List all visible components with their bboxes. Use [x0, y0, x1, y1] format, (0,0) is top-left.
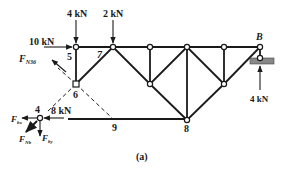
node-label-6: 6 [73, 89, 78, 100]
node-label-5: 5 [67, 51, 72, 62]
removed-member-6-9 [76, 84, 112, 118]
joint-top4 [184, 44, 189, 49]
joint-top3 [147, 44, 152, 49]
force-label-FNb: FNb [18, 134, 32, 145]
figure-caption: (a) [136, 151, 148, 163]
force-label-FN36: FN36 [18, 53, 36, 65]
node-label-8: 8 [184, 123, 189, 134]
force-label-Fbx: Fbx [10, 114, 23, 125]
joint-top5 [221, 44, 226, 49]
node-label-4: 4 [35, 104, 40, 115]
arrow-FN36 [52, 60, 66, 72]
joint-lower1 [147, 81, 152, 86]
node-label-9: 9 [112, 122, 117, 133]
member-7-lower1 [113, 47, 150, 84]
force-label-Fby: Fby [41, 133, 54, 144]
joint-8 [184, 117, 189, 122]
member-8-lower2 [187, 84, 224, 120]
arrow-FNb [26, 121, 37, 132]
load-label-8kN: 8 kN [51, 105, 72, 116]
joint-6 [73, 81, 79, 87]
load-label-4kN: 4 kN [67, 8, 88, 19]
member-lower1-top4 [150, 47, 187, 84]
joint-5 [73, 44, 78, 49]
member-lower2-B [224, 47, 260, 84]
member-lower1-8 [150, 84, 187, 120]
member-6-7 [76, 47, 113, 84]
joint-B [257, 44, 262, 49]
joint-7 [110, 44, 115, 49]
truss-diagram: 4 kN 2 kN 10 kN B 4 kN 8 kN 5 7 6 4 9 8 … [0, 0, 285, 173]
member-top4-lower2 [187, 47, 224, 84]
support-label-B: B [255, 31, 263, 42]
load-label-10kN: 10 kN [29, 36, 55, 47]
reaction-label-4kN: 4 kN [250, 94, 269, 104]
joint-4 [37, 115, 42, 120]
pin-support-B [250, 47, 274, 64]
load-label-2kN: 2 kN [103, 8, 124, 19]
joint-lower2 [221, 81, 226, 86]
